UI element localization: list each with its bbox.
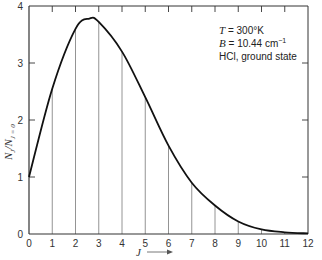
svg-text:8: 8 bbox=[212, 238, 218, 249]
svg-text:4: 4 bbox=[17, 1, 23, 12]
svg-text:3: 3 bbox=[17, 58, 23, 69]
svg-text:6: 6 bbox=[166, 238, 172, 249]
annotation-temperature: T = 300°K bbox=[219, 24, 264, 36]
annotation-rotational-constant: B = 10.44 cm−1 bbox=[219, 37, 286, 49]
svg-text:10: 10 bbox=[256, 238, 268, 249]
svg-text:J: J bbox=[136, 246, 142, 258]
svg-text:4: 4 bbox=[119, 238, 125, 249]
svg-text:7: 7 bbox=[189, 238, 195, 249]
x-tick-labels: 0123456789101112 bbox=[26, 238, 314, 249]
y-tick-labels: 01234 bbox=[17, 1, 23, 240]
svg-text:1: 1 bbox=[17, 172, 23, 183]
annotation-molecule: HCl, ground state bbox=[219, 51, 297, 62]
svg-text:5: 5 bbox=[142, 238, 148, 249]
y-axis-label: NJ/NJ = 0 bbox=[2, 124, 17, 161]
population-chart: 0123456789101112 01234 T = 300°K B = 10.… bbox=[0, 0, 322, 260]
svg-text:3: 3 bbox=[96, 238, 102, 249]
svg-text:1: 1 bbox=[49, 238, 55, 249]
svg-text:0: 0 bbox=[26, 238, 32, 249]
svg-text:11: 11 bbox=[280, 238, 291, 249]
svg-text:9: 9 bbox=[235, 238, 241, 249]
svg-text:2: 2 bbox=[73, 238, 79, 249]
svg-text:0: 0 bbox=[17, 229, 23, 240]
svg-text:2: 2 bbox=[17, 115, 23, 126]
svg-text:12: 12 bbox=[302, 238, 314, 249]
